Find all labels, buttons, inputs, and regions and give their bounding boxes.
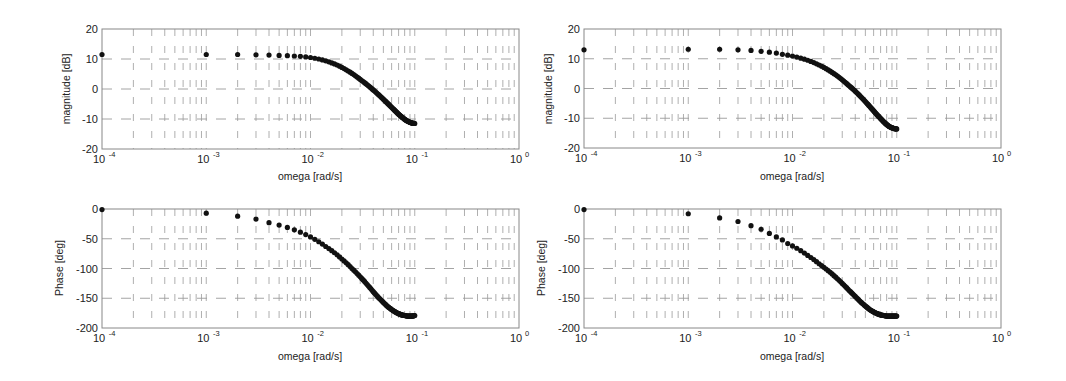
left-magnitude-plot: 20100-10-2010-410-310-210-1100 <box>82 23 529 165</box>
svg-text:0: 0 <box>92 203 98 215</box>
svg-text:20: 20 <box>86 23 98 35</box>
right-phase-plot: 0-50-100-150-20010-410-310-210-1100 <box>558 203 1011 344</box>
grid <box>584 209 1001 328</box>
svg-text:0: 0 <box>92 83 98 95</box>
y-tick-labels: 20100-10-20 <box>82 23 98 155</box>
svg-text:10: 10 <box>93 332 105 344</box>
svg-text:-1: -1 <box>421 150 428 159</box>
x-tick-labels: 10-410-310-210-1100 <box>93 329 529 344</box>
bode-figure: 20100-10-2010-410-310-210-1100 0-50-100-… <box>0 0 1066 381</box>
svg-text:-2: -2 <box>317 329 324 338</box>
svg-text:-1: -1 <box>903 329 910 338</box>
svg-text:-50: -50 <box>82 233 98 245</box>
svg-text:10: 10 <box>510 153 522 165</box>
svg-text:-4: -4 <box>109 150 116 159</box>
svg-text:10: 10 <box>301 332 313 344</box>
x-tick-labels: 10-410-310-210-1100 <box>575 329 1011 344</box>
svg-text:-10: -10 <box>564 112 580 124</box>
svg-text:0: 0 <box>574 203 580 215</box>
y-tick-labels: 0-50-100-150-200 <box>76 203 98 334</box>
svg-text:10: 10 <box>783 152 795 164</box>
right-magnitude-ylabel: magnitude [dB] <box>542 54 554 125</box>
svg-text:-1: -1 <box>421 329 428 338</box>
svg-text:-3: -3 <box>213 150 220 159</box>
svg-text:10: 10 <box>406 153 418 165</box>
left-phase-xlabel: omega [rad/s] <box>278 350 342 362</box>
grid <box>102 29 519 149</box>
svg-text:-50: -50 <box>564 233 580 245</box>
svg-text:-100: -100 <box>76 263 98 275</box>
svg-text:-2: -2 <box>799 149 806 158</box>
left-phase-ylabel: Phase [deg] <box>53 240 65 296</box>
svg-text:-3: -3 <box>695 329 702 338</box>
svg-text:-3: -3 <box>695 149 702 158</box>
svg-text:10: 10 <box>575 152 587 164</box>
y-tick-labels: 0-50-100-150-200 <box>558 203 580 334</box>
data-markers <box>99 207 417 319</box>
x-tick-labels: 10-410-310-210-1100 <box>575 149 1011 164</box>
svg-text:-4: -4 <box>109 329 116 338</box>
x-tick-labels: 10-410-310-210-1100 <box>93 150 529 165</box>
svg-text:10: 10 <box>197 153 209 165</box>
left-phase-plot: 0-50-100-150-20010-410-310-210-1100 <box>76 203 529 344</box>
svg-text:10: 10 <box>568 53 580 65</box>
svg-text:10: 10 <box>86 53 98 65</box>
right-magnitude-plot: 20100-10-2010-410-310-210-1100 <box>564 23 1011 164</box>
svg-text:-4: -4 <box>591 149 598 158</box>
svg-text:10: 10 <box>406 332 418 344</box>
data-markers <box>581 47 899 132</box>
svg-text:10: 10 <box>93 153 105 165</box>
grid <box>584 29 1001 148</box>
svg-text:10: 10 <box>888 152 900 164</box>
svg-text:-150: -150 <box>76 292 98 304</box>
left-magnitude-ylabel: magnitude [dB] <box>60 54 72 125</box>
svg-text:-2: -2 <box>799 329 806 338</box>
svg-text:0: 0 <box>1007 149 1011 158</box>
right-magnitude-xlabel: omega [rad/s] <box>760 170 824 182</box>
svg-text:-1: -1 <box>903 149 910 158</box>
svg-text:-100: -100 <box>558 263 580 275</box>
svg-text:10: 10 <box>679 332 691 344</box>
svg-text:0: 0 <box>574 83 580 95</box>
svg-text:10: 10 <box>888 332 900 344</box>
left-magnitude-xlabel: omega [rad/s] <box>278 170 342 182</box>
svg-text:-3: -3 <box>213 329 220 338</box>
svg-text:0: 0 <box>1007 329 1011 338</box>
y-tick-labels: 20100-10-20 <box>564 23 580 154</box>
svg-text:10: 10 <box>301 153 313 165</box>
svg-text:20: 20 <box>568 23 580 35</box>
svg-text:10: 10 <box>679 152 691 164</box>
svg-text:0: 0 <box>525 150 529 159</box>
svg-text:10: 10 <box>197 332 209 344</box>
svg-text:-4: -4 <box>591 329 598 338</box>
svg-text:10: 10 <box>992 332 1004 344</box>
data-markers <box>581 207 899 319</box>
grid <box>102 209 519 328</box>
right-phase-ylabel: Phase [deg] <box>535 240 547 296</box>
right-phase-xlabel: omega [rad/s] <box>760 350 824 362</box>
svg-text:10: 10 <box>575 332 587 344</box>
svg-text:-10: -10 <box>82 113 98 125</box>
svg-text:-2: -2 <box>317 150 324 159</box>
svg-text:0: 0 <box>525 329 529 338</box>
svg-text:10: 10 <box>992 152 1004 164</box>
svg-text:-150: -150 <box>558 292 580 304</box>
svg-text:10: 10 <box>783 332 795 344</box>
svg-text:10: 10 <box>510 332 522 344</box>
